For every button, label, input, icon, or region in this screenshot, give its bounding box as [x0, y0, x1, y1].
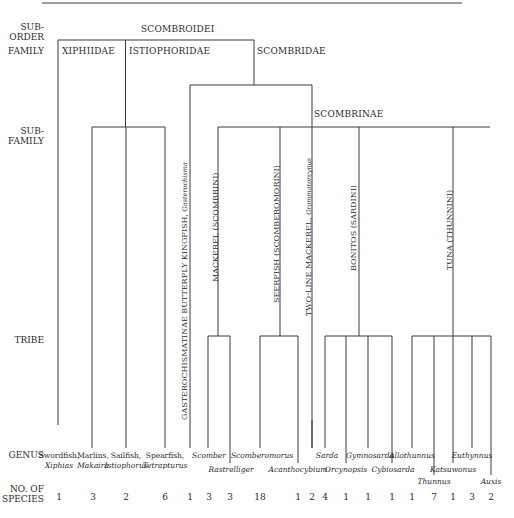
rank-label-subfamily-line2: FAMILY [0, 136, 44, 146]
species-count-scomber: 3 [206, 492, 212, 502]
species-count-orcynopsis: 1 [343, 492, 349, 502]
tetrapturus-genus: Tetrapturus [143, 461, 188, 470]
family-istiophoridae: ISTIOPHORIDAE [129, 46, 210, 56]
species-count-acanthocybium: 1 [295, 492, 301, 502]
tribe-tuna: TUNA (THUNNINI) [445, 190, 454, 270]
sailfish-common: Sailfish, [104, 451, 147, 461]
genus-acanthocybium: Acanthocybium [269, 465, 328, 475]
genus-orcynopsis: Orcynopsis [325, 465, 367, 475]
genus-scomberomorus: Scomberomorus [231, 451, 293, 461]
gasterochisma-genus: Gasterochisma [181, 162, 189, 211]
species-count-gymnosarda: 1 [365, 492, 371, 502]
genus-allothunnus: Allothunnus [389, 451, 435, 461]
tribe-bonitos: BONITOS (SARDINI) [349, 185, 358, 271]
swordfish-common: Swordfish, [39, 451, 80, 461]
gasterochismatinae-label: GASTEROCHISMATINAE BUTTERFLY KINGFISH, [180, 211, 189, 420]
species-count-makaira: 3 [90, 492, 96, 502]
tribe-mackerel: MACKEREL (SCOMBRINI) [211, 173, 220, 282]
rank-label-family: FAMILY [0, 46, 44, 56]
genus-auxis: Auxis [481, 477, 502, 487]
genus-katsuwonus: Katsuwonus [430, 465, 476, 475]
rank-label-species: NO. OF SPECIES [0, 484, 44, 504]
species-count-gasterochisma: 1 [187, 492, 193, 502]
genus-tetrapturus: Spearfish,Tetrapturus [143, 451, 188, 471]
suborder-scombroidei: SCOMBROIDEI [141, 24, 215, 34]
family-xiphiidae: XIPHIIDAE [62, 46, 115, 56]
rank-label-tribe: TRIBE [0, 335, 44, 345]
species-count-istiophorus: 2 [123, 492, 129, 502]
tribe-two-line-mackerel: TWO-LINE MACKEREL, Grammatorcynus [304, 158, 313, 316]
genus-thunnus: Thunnus [417, 477, 450, 487]
genus-euthynnus: Euthynnus [452, 451, 493, 461]
genus-gymnosarda: Gymnosarda [346, 451, 394, 461]
species-count-euthynnus: 3 [469, 492, 475, 502]
species-count-tetrapturus: 6 [162, 492, 168, 502]
two-line-mackerel-label: TWO-LINE MACKEREL, [304, 215, 313, 316]
genus-istiophorus: Sailfish,Istiophorus [104, 451, 147, 471]
rank-label-suborder-line1: SUB- [0, 22, 44, 32]
species-count-grammatorcynus: 2 [309, 492, 315, 502]
subfamily-gasterochismatinae: GASTEROCHISMATINAE BUTTERFLY KINGFISH, G… [180, 162, 189, 420]
subfamily-scombrinae: SCOMBRINAE [314, 109, 384, 119]
genus-rastrelliger: Rastrelliger [208, 465, 253, 475]
genus-sarda: Sarda [316, 451, 338, 461]
grammatorcynus-genus: Grammatorcynus [305, 158, 313, 215]
genus-scomber: Scomber [192, 451, 226, 461]
rank-label-genus: GENUS [0, 450, 44, 460]
genus-cybiosarda: Cybiosarda [372, 465, 415, 475]
tribe-seerfish: SEERFISH (SCOMBEROMORINI) [272, 165, 281, 303]
rank-label-subfamily: SUB- FAMILY [0, 126, 44, 146]
genus-xiphias: Swordfish,Xiphias [39, 451, 80, 471]
rank-label-subfamily-line1: SUB- [0, 126, 44, 136]
rank-label-suborder-line2: ORDER [0, 32, 44, 42]
species-count-sarda: 4 [322, 492, 328, 502]
species-count-cybiosarda: 1 [389, 492, 395, 502]
species-count-auxis: 2 [488, 492, 494, 502]
istiophorus-genus: Istiophorus [104, 461, 147, 470]
rank-label-species-line2: SPECIES [0, 494, 44, 504]
species-count-scomberomorus: 18 [254, 492, 265, 502]
species-count-thunnus: 7 [431, 492, 437, 502]
species-count-xiphias: 1 [56, 492, 62, 502]
spearfish-common: Spearfish, [143, 451, 188, 461]
xiphias-genus: Xiphias [45, 461, 73, 470]
rank-label-species-line1: NO. OF [0, 484, 44, 494]
species-count-allothunnus: 1 [409, 492, 415, 502]
species-count-rastrelliger: 3 [227, 492, 233, 502]
species-count-katsuwonus: 1 [450, 492, 456, 502]
rank-label-suborder: SUB- ORDER [0, 22, 44, 42]
family-scombridae: SCOMBRIDAE [257, 46, 326, 56]
phylogenetic-tree-lines [0, 0, 514, 518]
